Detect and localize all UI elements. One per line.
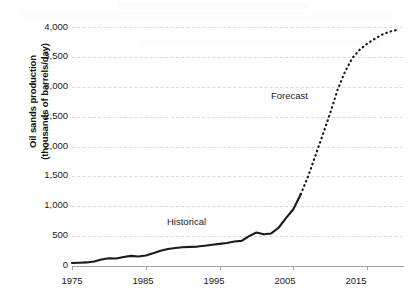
plot-area [0, 0, 410, 308]
historical-series-line [72, 194, 301, 263]
chart-container: Oil sands production (thousands of barre… [0, 0, 410, 308]
gridlines-group [72, 28, 404, 237]
forecast-series-line [301, 30, 397, 194]
